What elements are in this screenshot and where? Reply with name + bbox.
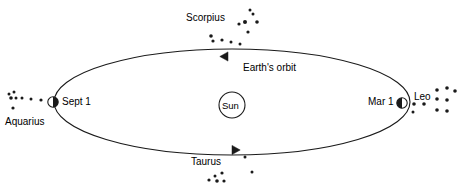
star-scorpius-0 <box>249 9 252 12</box>
star-leo-0 <box>435 88 439 92</box>
earth-date-label-mar-1: Mar 1 <box>368 97 394 107</box>
star-scorpius-9 <box>230 41 233 44</box>
star-leo-5 <box>412 102 416 106</box>
constellation-label-taurus: Taurus <box>191 157 221 167</box>
earth-date-label-sept-1: Sept 1 <box>62 97 91 107</box>
star-taurus-2 <box>214 175 217 178</box>
star-scorpius-1 <box>252 13 255 16</box>
star-scorpius-6 <box>209 34 213 38</box>
star-leo-9 <box>412 111 415 114</box>
star-leo-7 <box>435 108 439 112</box>
star-taurus-1 <box>251 171 254 174</box>
star-scorpius-8 <box>220 38 223 41</box>
star-taurus-3 <box>220 171 223 174</box>
star-leo-4 <box>445 98 449 102</box>
star-scorpius-4 <box>237 22 240 25</box>
earths-orbit-label: Earth's orbit <box>243 63 296 73</box>
star-leo-2 <box>453 89 457 93</box>
arrow-bottom-icon <box>232 145 240 154</box>
star-aquarius-3 <box>15 97 18 100</box>
star-scorpius-5 <box>246 30 249 33</box>
star-aquarius-4 <box>21 97 24 100</box>
star-taurus-5 <box>215 179 219 183</box>
star-aquarius-1 <box>13 91 16 94</box>
star-taurus-0 <box>244 156 247 159</box>
orbit-diagram: Sun Earth's orbit Sept 1 Mar 1 Scorpius … <box>0 0 466 191</box>
star-leo-3 <box>435 97 439 101</box>
star-aquarius-2 <box>9 96 13 100</box>
sun-label: Sun <box>222 101 239 111</box>
star-aquarius-7 <box>11 106 14 109</box>
star-leo-8 <box>445 109 449 113</box>
star-leo-6 <box>422 102 426 106</box>
constellation-label-leo: Leo <box>414 92 431 102</box>
star-scorpius-3 <box>255 20 259 24</box>
constellation-label-scorpius: Scorpius <box>186 13 225 23</box>
star-scorpius-2 <box>243 20 247 24</box>
star-scorpius-10 <box>239 43 242 46</box>
arrow-top-icon <box>220 52 228 61</box>
star-aquarius-5 <box>30 98 33 101</box>
star-taurus-4 <box>207 178 210 181</box>
constellation-label-aquarius: Aquarius <box>5 117 44 127</box>
star-aquarius-6 <box>39 98 42 101</box>
star-scorpius-7 <box>211 39 214 42</box>
star-leo-1 <box>445 86 449 90</box>
star-aquarius-0 <box>8 93 11 96</box>
star-taurus-6 <box>222 179 225 182</box>
